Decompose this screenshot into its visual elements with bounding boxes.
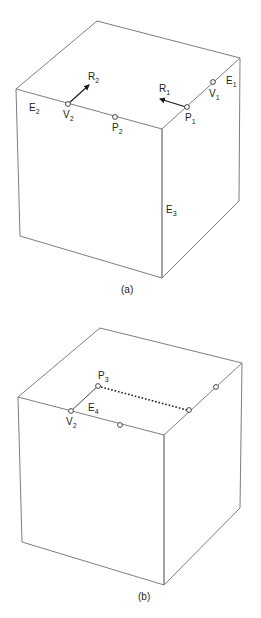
label-V2: V2 [63,109,74,122]
point-right-edge-upper-marker [214,385,219,390]
cube-b-top-front-right-edge [164,363,242,435]
label-R1: R1 [159,83,170,96]
point-front-edge-marker [118,423,123,428]
cube-b-left-vertical-edge [18,397,22,542]
cube-a-edge-E1 [162,58,240,129]
cube-b-top-back-left-edge [18,328,100,397]
cube-a-left-vertical-edge [16,89,20,236]
label-P2: P2 [112,122,123,135]
caption-b: (b) [138,591,150,602]
point-P2-marker [113,115,118,120]
label-E1: E1 [226,75,237,88]
point-V1-marker [211,80,216,85]
cube-a-top-back-right-edge [97,21,240,58]
cube-b-top-back-right-edge [100,328,242,363]
panel-a-cube [16,21,240,278]
arrow-R1 [160,99,186,107]
point-P1-marker [185,105,190,110]
caption-a: (a) [121,284,133,295]
cube-b-bottom-left-edge [22,542,164,585]
cube-b-right-vertical-edge [240,363,242,508]
label-E2: E2 [29,102,40,115]
figure-canvas: E1 E2 E3 V1 V2 P1 P2 R1 R2 (a) P3 E4 V2 … [0,0,261,618]
cube-a-right-vertical-edge [239,58,240,201]
point-V2-marker [66,102,71,107]
point-right-edge-lower-marker [187,408,192,413]
label-P3: P3 [98,370,109,383]
point-V2-b-marker [69,409,74,414]
arrow-R2 [68,85,89,104]
label-R2: R2 [88,71,99,84]
label-V1: V1 [209,88,220,101]
label-P1: P1 [185,112,196,125]
cube-b-bottom-right-edge [164,508,240,585]
label-V2-b: V2 [66,416,77,429]
cube-a-top-back-left-edge [16,21,97,89]
label-E3: E3 [166,204,177,217]
cube-a-bottom-left-edge [20,236,162,278]
dotted-connector-P3 [101,387,187,410]
point-P3-marker [96,384,101,389]
panel-b-cube [18,328,242,585]
label-E4: E4 [88,402,99,415]
